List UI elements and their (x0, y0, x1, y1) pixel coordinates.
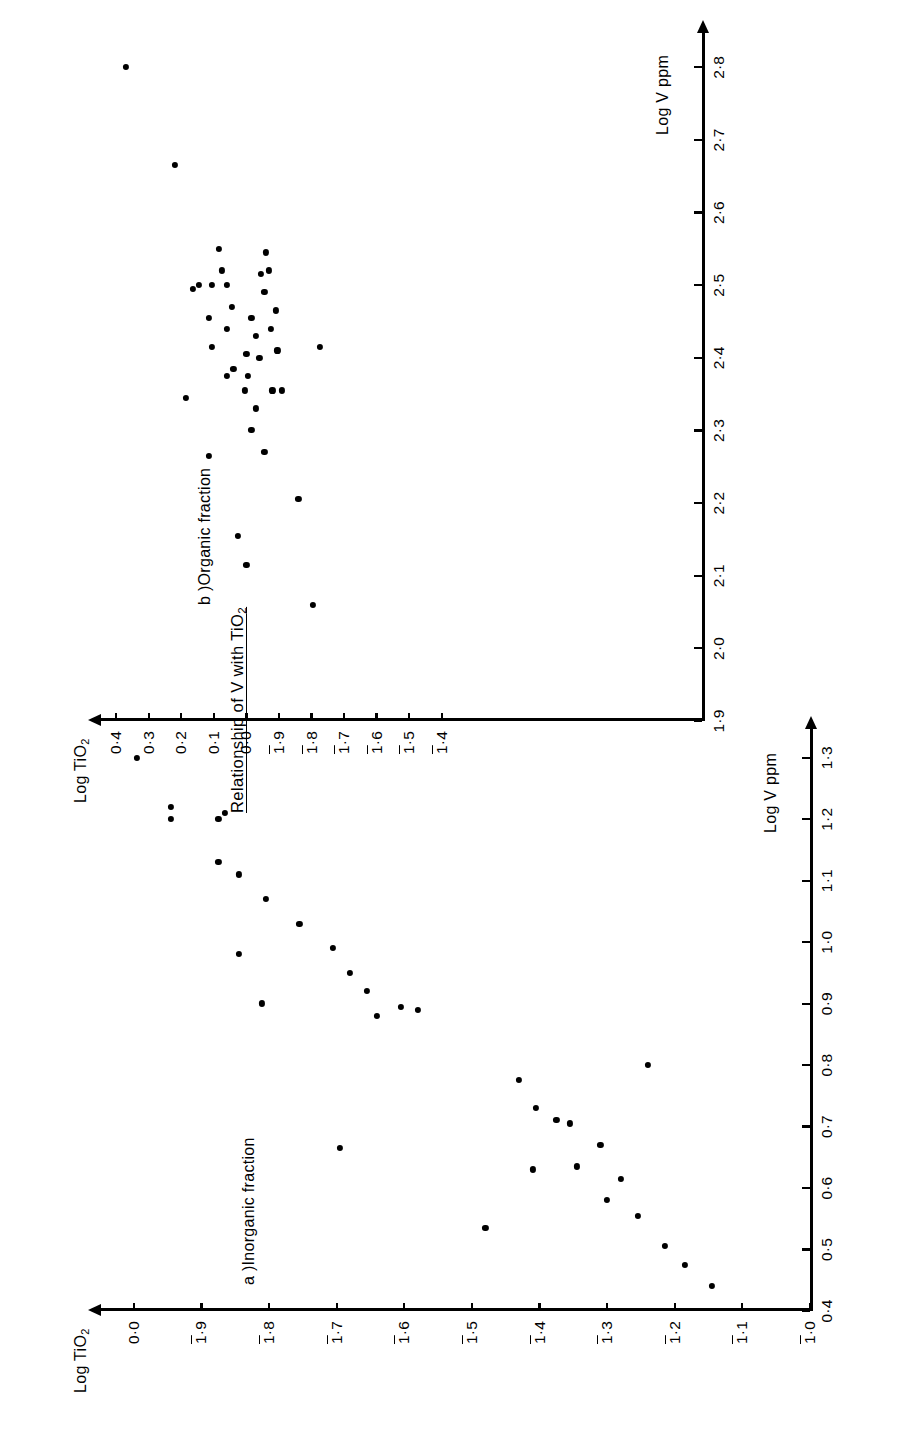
y-tick-label: 0·1 (205, 731, 223, 785)
panel-b-y-axis-line (100, 718, 704, 721)
data-point (273, 308, 279, 314)
panel-b-label: b )Organic fraction (196, 468, 214, 605)
data-point (168, 804, 174, 810)
x-tick-mark (802, 1248, 810, 1250)
y-tick-mark (375, 713, 377, 721)
y-tick-mark (606, 1303, 608, 1311)
y-tick-label: 1·7 (328, 1321, 346, 1375)
y-tick-label: 1·9 (192, 1321, 210, 1375)
x-tick-label: 0·9 (818, 992, 836, 1015)
x-tick-label: 1·0 (818, 931, 836, 954)
data-point (256, 355, 262, 361)
y-tick-label: 1·8 (303, 731, 321, 785)
y-tick-label: 1·1 (733, 1321, 751, 1375)
y-tick-label: 0·0 (125, 1321, 143, 1375)
panel-a-x-axis-title: Log V ppm (762, 753, 780, 833)
y-tick-label: 1·3 (598, 1321, 616, 1375)
x-tick-mark (694, 647, 702, 649)
y-tick-mark (115, 713, 117, 721)
data-point (216, 246, 222, 252)
data-point (597, 1142, 603, 1148)
y-tick-mark (200, 1303, 202, 1311)
data-point (259, 1001, 265, 1007)
data-point (215, 816, 221, 822)
figure-canvas: Relationship of V with TiO2 a )Inorganic… (0, 0, 918, 1431)
y-tick-label: 0·2 (172, 731, 190, 785)
x-tick-mark (694, 429, 702, 431)
x-tick-mark (802, 1187, 810, 1189)
y-tick-mark (133, 1303, 135, 1311)
data-point (245, 373, 251, 379)
panel-a-label: a )Inorganic fraction (240, 1137, 258, 1285)
y-tick-label: 0·4 (107, 731, 125, 785)
x-tick-mark (694, 575, 702, 577)
data-point (224, 326, 230, 332)
x-tick-mark (694, 284, 702, 286)
data-point (295, 496, 301, 502)
x-tick-label: 2·7 (710, 128, 728, 151)
data-point (235, 533, 241, 539)
data-point (209, 344, 215, 350)
data-point (206, 453, 212, 459)
x-tick-mark (802, 1310, 810, 1312)
y-tick-mark (245, 713, 247, 721)
x-tick-mark (694, 357, 702, 359)
data-point (364, 988, 370, 994)
x-tick-label: 1·1 (818, 869, 836, 892)
y-tick-label: 1·6 (368, 731, 386, 785)
data-point (330, 945, 336, 951)
panel-a-y-axis-line (100, 1308, 812, 1311)
y-tick-mark (180, 713, 182, 721)
y-tick-label: 1·6 (395, 1321, 413, 1375)
x-tick-mark (802, 880, 810, 882)
y-tick-mark (278, 713, 280, 721)
data-point (236, 951, 242, 957)
data-point (253, 333, 259, 339)
y-tick-mark (471, 1303, 473, 1311)
data-point (172, 162, 178, 168)
data-point (236, 871, 242, 877)
y-tick-mark (441, 713, 443, 721)
data-point (317, 344, 323, 350)
data-point (222, 810, 228, 816)
x-tick-mark (802, 1126, 810, 1128)
x-tick-label: 0·7 (818, 1115, 836, 1138)
y-tick-mark (408, 713, 410, 721)
data-point (574, 1163, 580, 1169)
y-tick-mark (538, 1303, 540, 1311)
y-tick-label: 1·9 (270, 731, 288, 785)
panel-a-inorganic-fraction: a )Inorganic fraction Log TiO2 Log V ppm… (0, 731, 918, 1431)
x-tick-label: 2·0 (710, 637, 728, 660)
data-point (242, 387, 248, 393)
data-point (268, 326, 274, 332)
data-point (274, 348, 280, 354)
data-point (263, 249, 269, 255)
panel-b-x-axis-line (702, 31, 705, 721)
rotated-figure-wrapper: Relationship of V with TiO2 a )Inorganic… (0, 0, 918, 1431)
y-tick-mark (310, 713, 312, 721)
data-point (604, 1197, 610, 1203)
data-point (196, 282, 202, 288)
data-point (224, 282, 230, 288)
data-point (347, 970, 353, 976)
data-point (243, 351, 249, 357)
x-tick-mark (694, 720, 702, 722)
x-tick-label: 2·3 (710, 419, 728, 442)
data-point (296, 921, 302, 927)
data-point (224, 373, 230, 379)
y-tick-mark (403, 1303, 405, 1311)
data-point (183, 395, 189, 401)
y-tick-mark (213, 713, 215, 721)
x-tick-mark (802, 941, 810, 943)
x-tick-label: 2·6 (710, 201, 728, 224)
data-point (206, 315, 212, 321)
data-point (645, 1062, 651, 1068)
panel-b-x-axis-arrow-icon (697, 20, 709, 33)
data-point (190, 286, 196, 292)
data-point (168, 816, 174, 822)
x-tick-mark (694, 212, 702, 214)
y-tick-label: 1·7 (335, 731, 353, 785)
x-tick-label: 0·4 (818, 1299, 836, 1322)
x-tick-mark (802, 1003, 810, 1005)
data-point (530, 1167, 536, 1173)
